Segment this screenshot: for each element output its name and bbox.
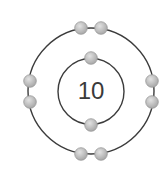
electron-icon: [95, 22, 108, 35]
electron-icon: [95, 148, 108, 161]
electron-icon: [146, 96, 159, 109]
electron-icon: [85, 52, 98, 65]
electron-icon: [75, 22, 88, 35]
electron-icon: [85, 119, 98, 132]
electron-icon: [24, 96, 37, 109]
electron-icon: [24, 75, 37, 88]
electron-icon: [146, 75, 159, 88]
electron-icon: [75, 148, 88, 161]
nucleus-label: 10: [61, 77, 121, 105]
